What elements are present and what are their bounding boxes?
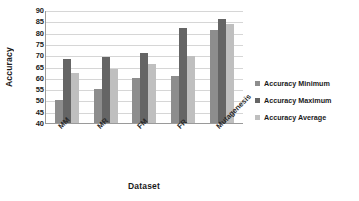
- bar-fr-avg[interactable]: [187, 56, 195, 123]
- y-axis-tick-label: 40: [36, 120, 44, 128]
- y-axis-tick-label: 75: [36, 41, 44, 49]
- y-axis-tick-label: 90: [36, 7, 44, 15]
- legend-label: Accuracy Average: [264, 114, 326, 121]
- bar-group-fm: [132, 11, 156, 123]
- bar-groups: [46, 11, 243, 123]
- legend-label: Accuracy Maximum: [264, 97, 332, 104]
- bar-fm-max[interactable]: [140, 53, 148, 123]
- plot-area: [45, 11, 243, 124]
- bar-group-mm: [55, 11, 79, 123]
- bar-mutagenesis-max[interactable]: [218, 19, 226, 123]
- y-axis-tick-label: 60: [36, 75, 44, 83]
- bar-group-fr: [171, 11, 195, 123]
- bar-group-mutagenesis: [210, 11, 234, 123]
- bar-mutagenesis-min[interactable]: [210, 30, 218, 123]
- legend-swatch-icon: [255, 115, 260, 120]
- bar-mr-avg[interactable]: [110, 69, 118, 123]
- bar-mr-max[interactable]: [102, 57, 110, 123]
- y-axis-tick-label: 55: [36, 86, 44, 94]
- legend-item[interactable]: Accuracy Average: [255, 113, 357, 122]
- bar-fr-max[interactable]: [179, 28, 187, 123]
- y-axis-tick-labels: 9085807570656055504540: [24, 11, 44, 124]
- legend-label: Accuracy Minimum: [264, 80, 330, 87]
- bar-fm-min[interactable]: [132, 78, 140, 123]
- y-axis-tick-label: 85: [36, 19, 44, 27]
- legend-item[interactable]: Accuracy Maximum: [255, 96, 357, 105]
- bar-fr-min[interactable]: [171, 76, 179, 123]
- y-axis-tick-label: 80: [36, 30, 44, 38]
- legend-swatch-icon: [255, 81, 260, 86]
- chart-legend: Accuracy MinimumAccuracy MaximumAccuracy…: [255, 79, 357, 122]
- legend-swatch-icon: [255, 98, 260, 103]
- x-axis-title: Dataset: [45, 181, 243, 191]
- y-axis-tick-label: 70: [36, 52, 44, 60]
- bar-group-mr: [94, 11, 118, 123]
- y-axis-tick-label: 50: [36, 98, 44, 106]
- bar-mm-max[interactable]: [63, 59, 71, 123]
- bar-fm-avg[interactable]: [148, 64, 156, 123]
- bar-mm-avg[interactable]: [71, 73, 79, 123]
- x-axis-tick-labels: MMMRFMFRMutagenesis: [45, 125, 243, 173]
- y-axis-tick-label: 65: [36, 64, 44, 72]
- y-axis-title: Accuracy: [2, 28, 16, 106]
- bar-chart: Accuracy 9085807570656055504540 MMMRFMFR…: [0, 0, 359, 201]
- y-axis-tick-label: 45: [36, 109, 44, 117]
- legend-item[interactable]: Accuracy Minimum: [255, 79, 357, 88]
